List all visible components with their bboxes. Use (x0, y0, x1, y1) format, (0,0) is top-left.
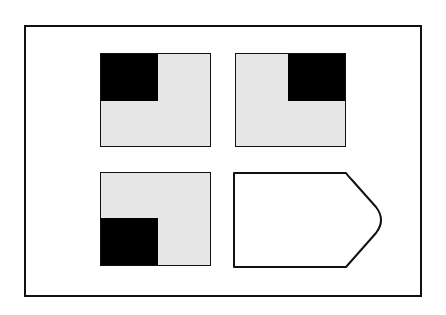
arrow-pentagon-shape (0, 0, 446, 315)
